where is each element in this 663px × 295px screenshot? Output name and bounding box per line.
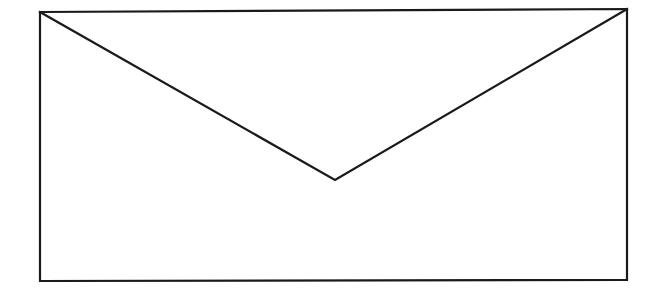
envelope-icon — [0, 0, 663, 295]
envelope-body-outline — [40, 9, 627, 281]
envelope-flap-lines — [40, 9, 627, 180]
